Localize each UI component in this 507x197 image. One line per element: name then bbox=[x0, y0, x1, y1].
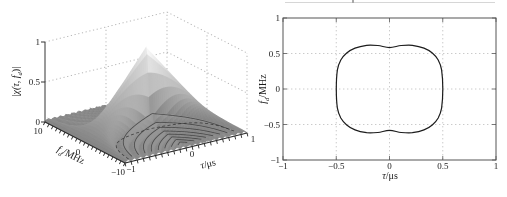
contour-y-tick-label: 1 bbox=[276, 14, 281, 23]
contour-y-tick-label: 0 bbox=[276, 85, 281, 94]
fd-tick-label: −10 bbox=[111, 168, 125, 177]
z-tick-label: 1 bbox=[36, 38, 41, 47]
contour-x-tick-label: 1 bbox=[494, 162, 499, 171]
tau-tick-label: 0 bbox=[190, 150, 195, 159]
contour-plot-svg bbox=[253, 0, 507, 197]
figure-page: { "figure": { "description_visible": fal… bbox=[0, 0, 507, 197]
z-tick-label: 0.5 bbox=[29, 78, 40, 87]
contour-x-tick-label: 0.5 bbox=[437, 162, 448, 171]
fd-tick-label: 0 bbox=[76, 147, 81, 156]
ambiguity-surface-plot: |χ(τ, fd)| fd/MHz τ/μs 10.50100−10−101 bbox=[0, 0, 260, 197]
contour-y-tick-label: 0.5 bbox=[269, 49, 280, 58]
contour-x-tick-label: −0.5 bbox=[328, 162, 344, 171]
ambiguity-contour-plot: fd/MHz τ/μs −1−0.500.5110.50−0.5−1 bbox=[253, 0, 507, 197]
contour-x-axis-label: τ/μs bbox=[382, 171, 398, 181]
contour-x-tick-label: 0 bbox=[387, 162, 392, 171]
tau-tick-label: −1 bbox=[126, 165, 136, 174]
contour-y-tick-label: −0.5 bbox=[264, 120, 280, 129]
fd-tick-label: 10 bbox=[34, 127, 43, 136]
z-axis-label: |χ(τ, fd)| bbox=[11, 67, 21, 97]
contour-y-axis-label: fd/MHz bbox=[258, 74, 268, 103]
contour-y-tick-label: −1 bbox=[270, 156, 280, 165]
